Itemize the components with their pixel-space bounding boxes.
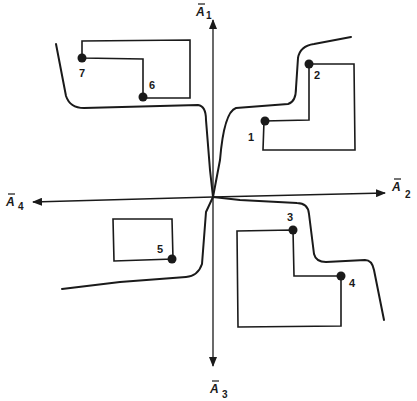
curve-lower-right: [213, 197, 384, 320]
axis-label-a4: A 4: [5, 194, 24, 212]
axis-a4-symbol: A: [5, 195, 15, 209]
point-2-label: 2: [314, 69, 320, 81]
axis-a2-subscript: 2: [405, 189, 411, 200]
point-1: [261, 117, 270, 126]
axis-a4-subscript: 4: [18, 201, 24, 212]
axis-a1-subscript: 1: [206, 10, 212, 21]
axis-a2-symbol: A: [391, 180, 401, 194]
axes: [33, 20, 385, 366]
point-5: [168, 255, 177, 264]
point-3: [289, 226, 298, 235]
region-5: [113, 219, 173, 261]
axis-label-a3: A 3: [209, 381, 228, 400]
point-3-label: 3: [287, 211, 293, 223]
axis-a2-arrow: [213, 193, 385, 197]
point-2: [305, 60, 314, 69]
point-1-label: 1: [248, 131, 254, 143]
point-7-label: 7: [79, 67, 85, 79]
axis-a1-symbol: A: [195, 5, 205, 19]
point-6: [139, 93, 148, 102]
region-3-4: [237, 230, 341, 327]
curves: [56, 37, 384, 320]
curve-upper-right: [213, 37, 351, 197]
region-6-7: [82, 40, 190, 98]
regions: [82, 40, 355, 327]
axis-label-a2: A 2: [391, 179, 411, 200]
axis-a4-arrow: [33, 197, 213, 202]
axis-a3-subscript: 3: [222, 389, 228, 400]
point-6-label: 6: [149, 79, 155, 91]
region-1-2: [263, 64, 355, 150]
point-4: [337, 272, 346, 281]
point-5-label: 5: [157, 243, 163, 255]
point-4-label: 4: [349, 277, 356, 289]
curve-lower-left: [62, 197, 213, 289]
point-7: [78, 54, 87, 63]
axis-label-a1: A 1: [195, 4, 212, 21]
diagram-canvas: A 1 A 2 A 3 A 4 1: [0, 0, 417, 401]
axis-a3-symbol: A: [209, 382, 219, 396]
